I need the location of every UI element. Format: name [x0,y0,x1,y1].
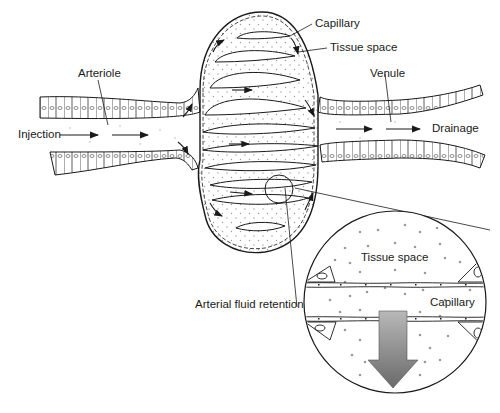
arteriole-vessel [40,88,200,175]
diagram-canvas [0,0,500,413]
label-drainage: Drainage [432,123,479,135]
label-inset-tissue-space: Tissue space [361,252,428,264]
label-tissue-space: Tissue space [330,42,397,54]
label-inset-capillary: Capillary [430,297,475,309]
label-arteriole: Arteriole [78,68,121,80]
label-venule: Venule [370,68,405,80]
label-arterial-fluid-retention: Arterial fluid retention [195,299,304,311]
capillary-bed [178,12,318,253]
label-injection: Injection [18,129,61,141]
label-capillary: Capillary [315,18,360,30]
